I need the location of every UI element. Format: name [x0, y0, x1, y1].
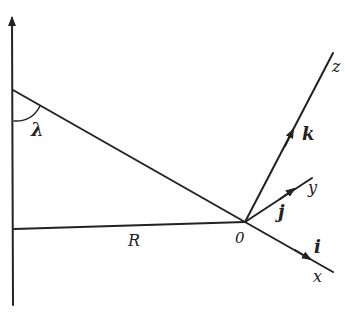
- radius-line: [14, 222, 245, 229]
- angle-label: λ: [30, 119, 44, 140]
- coordinate-diagram: λ R 0 z k y j i x: [0, 0, 345, 313]
- x-axis-label: x: [313, 267, 322, 286]
- vertical-axis: [12, 18, 13, 305]
- k-vector-arrow: [285, 130, 293, 146]
- j-vector-arrow: [280, 189, 294, 199]
- z-axis-label: z: [331, 57, 341, 76]
- i-vector-arrow: [295, 250, 310, 259]
- origin-label: 0: [235, 229, 245, 247]
- radius-label: R: [127, 231, 140, 250]
- y-axis-label: y: [307, 178, 318, 197]
- slant-line: [13, 90, 245, 222]
- j-vector-label: j: [275, 201, 285, 222]
- k-vector-label: k: [302, 123, 314, 144]
- i-vector-label: i: [314, 236, 321, 257]
